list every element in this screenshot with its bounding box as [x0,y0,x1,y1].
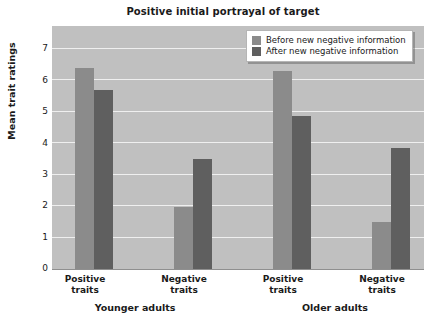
x-group-older-adults: Older adults [255,302,415,313]
y-tick-5: 5 [28,107,48,116]
x-category-line1: Positive [238,274,328,285]
y-tick-2: 2 [28,201,48,210]
y-tick-0: 0 [28,264,48,273]
y-tick-7: 7 [28,44,48,53]
x-group-younger-adults: Younger adults [55,302,215,313]
legend-swatch-before-icon [252,36,261,45]
x-category-line2: traits [139,285,229,296]
legend-label-before: Before new negative information [266,35,406,45]
x-category-line1: Negative [337,274,427,285]
y-axis-label: Mean trait ratings [6,26,17,156]
bar-after-younger-positive [94,90,113,270]
chart-legend: Before new negative information After ne… [246,30,413,62]
bar-chart: Positive initial portrayal of target Mea… [0,0,446,324]
gridline-6 [52,79,424,80]
legend-label-after: After new negative information [266,46,398,56]
plot-area [52,26,424,270]
legend-item-before: Before new negative information [252,35,406,45]
bar-before-younger-negative [174,207,193,270]
bar-after-younger-negative [193,159,212,270]
bar-after-older-negative [391,148,410,270]
y-axis-label-wrap: Mean trait ratings [14,60,28,220]
x-category-older-positive: Positive traits [238,274,328,296]
y-tick-3: 3 [28,170,48,179]
bar-before-younger-positive [75,68,94,270]
legend-item-after: After new negative information [252,46,406,56]
x-category-older-negative: Negative traits [337,274,427,296]
bar-before-older-negative [372,222,391,270]
x-axis-line [52,269,424,270]
y-tick-4: 4 [28,139,48,148]
x-category-line2: traits [337,285,427,296]
bar-before-older-positive [273,71,292,270]
x-category-line1: Negative [139,274,229,285]
x-category-line1: Positive [40,274,130,285]
y-tick-6: 6 [28,76,48,85]
x-category-younger-positive: Positive traits [40,274,130,296]
x-category-younger-negative: Negative traits [139,274,229,296]
legend-swatch-after-icon [252,47,261,56]
x-category-line2: traits [238,285,328,296]
bar-after-older-positive [292,116,311,270]
y-tick-1: 1 [28,233,48,242]
x-category-line2: traits [40,285,130,296]
chart-title: Positive initial portrayal of target [0,6,446,17]
